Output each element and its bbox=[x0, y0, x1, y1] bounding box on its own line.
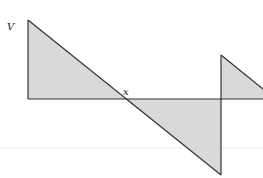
positive-region-right bbox=[221, 55, 263, 99]
x-axis-label: x bbox=[123, 86, 129, 97]
v-axis-label: V bbox=[7, 21, 16, 32]
shear-diagram: V x bbox=[0, 0, 263, 178]
